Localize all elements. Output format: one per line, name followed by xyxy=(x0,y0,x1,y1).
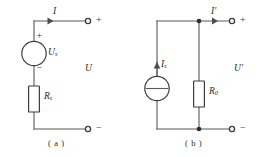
label-source-minus-a: − xyxy=(37,63,43,73)
label-source-plus-a: + xyxy=(37,31,43,41)
voltage-source-symbol-icon xyxy=(22,41,46,65)
circuit-b-group xyxy=(145,18,235,132)
resistor-rs-symbol-icon xyxy=(29,86,40,112)
junction-dot-b-bottom-icon xyxy=(197,127,202,132)
circuit-svg-canvas xyxy=(0,0,259,157)
label-port-voltage-u-a: U xyxy=(85,64,92,74)
current-arrow-b-icon xyxy=(212,18,218,25)
terminal-b-positive-icon xyxy=(229,18,234,23)
circuit-figure: I + − Us Rs U + − ( a ) I′ Is R0 U′ + − … xyxy=(0,0,259,157)
junction-dot-b-top-icon xyxy=(197,19,202,24)
label-current-i-prime-mark: ′ xyxy=(214,6,216,16)
label-current-i-prime-b: I′ xyxy=(211,7,216,17)
label-port-voltage-u-prime-base: U xyxy=(234,63,241,73)
circuit-a-group xyxy=(22,18,91,132)
label-source-is: Is xyxy=(161,60,167,70)
label-resistor-r0: R0 xyxy=(209,87,218,97)
terminal-a-positive-icon xyxy=(85,18,90,23)
label-source-is-sub: s xyxy=(164,62,166,69)
current-arrow-a-icon xyxy=(48,18,54,25)
label-resistor-rs-sub: s xyxy=(50,94,52,101)
label-port-voltage-u-prime-b: U′ xyxy=(234,64,243,74)
label-terminal-plus-b: + xyxy=(240,15,246,25)
label-source-us-base: U xyxy=(48,47,55,57)
terminal-a-negative-icon xyxy=(85,126,90,131)
resistor-r0-symbol-icon xyxy=(194,81,205,107)
label-current-i-a: I xyxy=(53,7,56,17)
label-source-us-sub: s xyxy=(55,50,57,57)
label-resistor-r0-sub: 0 xyxy=(215,89,218,96)
label-source-us: Us xyxy=(48,48,57,58)
label-terminal-minus-b: − xyxy=(240,123,246,133)
label-terminal-plus-a: + xyxy=(96,15,102,25)
terminal-b-negative-icon xyxy=(229,126,234,131)
source-current-arrow-head-icon xyxy=(154,62,161,69)
label-terminal-minus-a: − xyxy=(96,123,102,133)
caption-b: ( b ) xyxy=(185,139,202,148)
caption-a: ( a ) xyxy=(48,139,65,148)
label-resistor-rs: Rs xyxy=(44,92,52,102)
label-port-voltage-u-prime-mark: ′ xyxy=(241,63,243,73)
